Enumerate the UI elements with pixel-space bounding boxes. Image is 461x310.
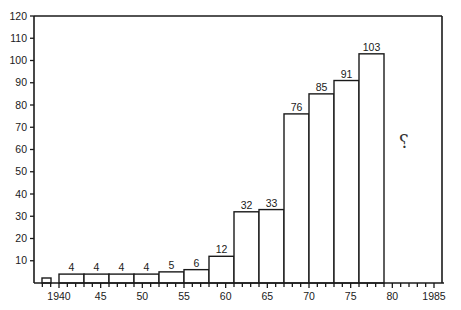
bar	[109, 274, 134, 283]
x-tick-label: 55	[178, 290, 190, 302]
bar	[259, 210, 284, 283]
x-tick-label: 70	[303, 290, 315, 302]
bar	[334, 81, 359, 283]
y-axis-ticks: 102030405060708090100110120	[9, 10, 34, 267]
bar-value-label: 12	[216, 243, 228, 255]
y-tick-label: 20	[15, 232, 27, 244]
bar	[309, 94, 334, 283]
y-tick-label: 80	[15, 99, 27, 111]
x-tick-label: 50	[136, 290, 148, 302]
bar	[84, 274, 109, 283]
x-tick-label: 60	[220, 290, 232, 302]
bar-value-label: 4	[144, 261, 150, 273]
bar-value-label: 4	[119, 261, 125, 273]
y-tick-label: 120	[9, 10, 27, 22]
y-tick-label: 10	[15, 254, 27, 266]
y-tick-label: 100	[9, 54, 27, 66]
x-tick-label: 45	[95, 290, 107, 302]
x-tick-label: 80	[386, 290, 398, 302]
annotations-group: ?	[399, 131, 409, 152]
y-tick-label: 60	[15, 143, 27, 155]
bars-group	[42, 54, 384, 283]
bar	[159, 272, 184, 283]
x-tick-label: 75	[345, 290, 357, 302]
bar	[59, 274, 84, 283]
bar-value-label: 85	[316, 81, 328, 93]
x-tick-label: 1985	[422, 290, 446, 302]
bar-value-label: 76	[291, 101, 303, 113]
bar-value-label: 91	[341, 68, 353, 80]
bar-value-label: 103	[363, 41, 381, 53]
bar-value-label: 33	[266, 197, 278, 209]
x-axis-ticks: 194045505560657075801985	[42, 283, 446, 302]
y-tick-label: 30	[15, 210, 27, 222]
bar-value-label: 4	[69, 261, 75, 273]
question-mark-annotation: ?	[399, 131, 409, 152]
histogram-chart: 444456123233768591103 102030405060708090…	[0, 0, 461, 310]
bar	[284, 114, 309, 283]
bar	[134, 274, 159, 283]
bar-value-label: 5	[169, 259, 175, 271]
y-tick-label: 110	[10, 32, 27, 44]
bar	[359, 54, 384, 283]
bar	[184, 270, 209, 283]
bar-value-label: 32	[241, 199, 253, 211]
bar	[234, 212, 259, 283]
y-tick-label: 90	[15, 76, 27, 88]
y-tick-label: 70	[15, 121, 27, 133]
x-tick-label: 1940	[47, 290, 71, 302]
svg-text:?: ?	[399, 131, 409, 152]
y-tick-label: 40	[15, 188, 27, 200]
bar-value-label: 4	[94, 261, 100, 273]
bar	[209, 256, 234, 283]
bar-value-label: 6	[194, 257, 200, 269]
y-tick-label: 50	[15, 165, 27, 177]
x-tick-label: 65	[261, 290, 273, 302]
